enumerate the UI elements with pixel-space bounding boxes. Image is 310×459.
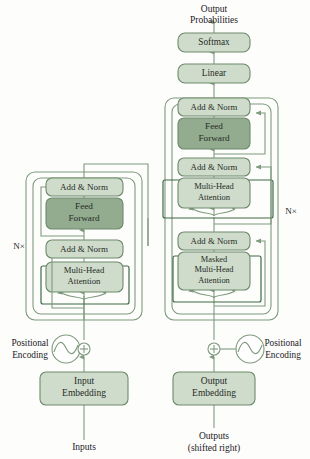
positional-encoding-right-icon	[236, 335, 264, 363]
decoder-masked-qkv-left	[193, 290, 214, 298]
encoder-stack: Input Embedding	[11, 164, 148, 452]
decoder-stack: Output Embedding	[148, 4, 302, 454]
positional-encoding-right-label-line2: Encoding	[265, 350, 301, 360]
encoder-repeat-count-label: N×	[13, 241, 25, 251]
linear-box[interactable]: Linear	[178, 64, 250, 83]
decoder-masked-attention-label-line1: Masked	[201, 255, 228, 264]
encoder-feed-forward-label-line2: Forward	[68, 213, 100, 223]
decoder-cross-qkv-left	[193, 208, 214, 216]
positional-encoding-left-label-line2: Encoding	[12, 350, 48, 360]
decoder-masked-qkv-right	[214, 290, 235, 298]
positional-encoding-left-icon	[52, 335, 80, 363]
decoder-masked-attention-box[interactable]: Masked Multi-Head Attention	[178, 252, 250, 290]
decoder-add-norm-mid-box[interactable]: Add & Norm	[178, 158, 250, 176]
encoder-add-norm-bottom-label: Add & Norm	[60, 244, 108, 254]
encoder-add-norm-bottom-box[interactable]: Add & Norm	[46, 240, 123, 258]
encoder-qkv-lines	[62, 292, 106, 300]
decoder-add-norm-bottom-box[interactable]: Add & Norm	[178, 232, 250, 250]
decoder-cross-attention-box[interactable]: Multi-Head Attention	[178, 178, 250, 208]
input-embedding-label-line2: Embedding	[62, 388, 106, 398]
decoder-add-norm-bottom-label: Add & Norm	[191, 236, 238, 246]
residual-sum-left	[78, 343, 90, 355]
outputs-label-line2: (shifted right)	[188, 443, 241, 454]
encoder-add-norm-top-box[interactable]: Add & Norm	[46, 178, 123, 196]
decoder-cross-qkv-right	[214, 208, 235, 216]
encoder-qkv-left	[62, 292, 84, 300]
softmax-label: Softmax	[198, 37, 230, 47]
softmax-box[interactable]: Softmax	[178, 33, 250, 52]
positional-encoding-right-label-line1: Positional	[264, 338, 302, 348]
architecture-svg-canvas: Input Embedding	[0, 0, 310, 459]
decoder-masked-attention-label-line3: Attention	[198, 276, 230, 285]
output-probabilities-label-line1: Output	[201, 4, 228, 14]
decoder-add-norm-top-label: Add & Norm	[191, 102, 238, 112]
encoder-self-attention-label-line1: Multi-Head	[64, 265, 105, 275]
residual-sum-right	[208, 343, 220, 355]
input-embedding-box[interactable]: Input Embedding	[40, 372, 128, 405]
decoder-feed-forward-label-line2: Forward	[198, 133, 230, 143]
output-probabilities-label-line2: Probabilities	[190, 15, 238, 25]
input-embedding-label-line1: Input	[74, 376, 94, 386]
output-embedding-label-line2: Embedding	[192, 388, 236, 398]
decoder-masked-attention-label-line2: Multi-Head	[194, 265, 234, 274]
decoder-cross-attention-label-line1: Multi-Head	[194, 181, 234, 191]
encoder-feed-forward-box[interactable]: Feed Forward	[46, 198, 123, 229]
encoder-add-norm-top-label: Add & Norm	[60, 182, 108, 192]
encoder-qkv-right	[84, 292, 106, 300]
decoder-cross-attention-label-line2: Attention	[198, 192, 231, 202]
decoder-feed-forward-label-line1: Feed	[205, 121, 223, 131]
decoder-repeat-count-label: N×	[285, 206, 297, 216]
decoder-add-norm-mid-label: Add & Norm	[191, 162, 238, 172]
output-embedding-box[interactable]: Output Embedding	[173, 372, 255, 405]
transformer-architecture-diagram: Input Embedding	[0, 0, 310, 459]
encoder-self-attention-label-line2: Attention	[68, 276, 101, 286]
encoder-self-attention-box[interactable]: Multi-Head Attention	[46, 262, 123, 292]
decoder-cross-qkv-lines	[193, 208, 235, 216]
decoder-feed-forward-box[interactable]: Feed Forward	[178, 118, 250, 149]
inputs-label: Inputs	[72, 442, 96, 452]
linear-label: Linear	[202, 68, 227, 78]
decoder-add-norm-top-box[interactable]: Add & Norm	[178, 98, 250, 116]
positional-encoding-left-label-line1: Positional	[11, 338, 49, 348]
outputs-label-line1: Outputs	[199, 431, 229, 441]
output-embedding-label-line1: Output	[201, 376, 228, 386]
decoder-masked-qkv-lines	[193, 290, 235, 298]
encoder-feed-forward-label-line1: Feed	[75, 201, 93, 211]
